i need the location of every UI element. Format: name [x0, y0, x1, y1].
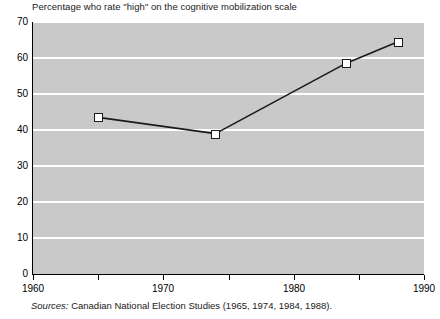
y-axis-tick-label: 40	[4, 125, 28, 135]
y-axis-tick-label: 60	[4, 53, 28, 63]
x-axis-tick	[294, 275, 295, 280]
y-axis-tick-label: 10	[4, 233, 28, 243]
gridline	[33, 22, 424, 23]
y-axis-tick-labels: 010203040506070	[0, 0, 28, 319]
chart-title: Percentage who rate "high" on the cognit…	[32, 1, 297, 13]
x-axis-tick-label: 1990	[404, 283, 440, 294]
data-point-marker	[394, 38, 403, 47]
source-note: Sources: Canadian National Election Stud…	[31, 300, 332, 312]
x-axis-tick-label: 1970	[143, 283, 183, 294]
y-axis-tick-label: 50	[4, 89, 28, 99]
x-axis-tick	[229, 275, 230, 280]
gridline	[33, 237, 424, 239]
x-axis-tick-label: 1980	[274, 283, 314, 294]
y-axis-tick-label: 30	[4, 161, 28, 171]
x-axis-tick	[359, 275, 360, 280]
plot-area	[33, 22, 424, 274]
gridline	[33, 165, 424, 167]
data-point-marker	[94, 113, 103, 122]
y-axis-tick-label: 0	[4, 269, 28, 279]
y-axis-tick-label: 20	[4, 197, 28, 207]
x-axis-tick	[163, 275, 164, 280]
data-point-marker	[342, 59, 351, 68]
gridline	[33, 201, 424, 203]
y-axis-line	[32, 22, 33, 275]
gridline	[33, 129, 424, 131]
x-axis-tick-label: 1960	[13, 283, 53, 294]
source-label: Sources:	[31, 300, 69, 311]
gridline	[33, 57, 424, 59]
data-point-marker	[211, 130, 220, 139]
x-axis-tick	[98, 275, 99, 280]
gridline	[33, 93, 424, 95]
y-axis-tick-label: 70	[4, 17, 28, 27]
source-text: Canadian National Election Studies (1965…	[69, 300, 333, 311]
x-axis-tick	[33, 275, 34, 280]
x-axis-tick	[424, 275, 425, 280]
x-axis-line	[32, 274, 424, 275]
